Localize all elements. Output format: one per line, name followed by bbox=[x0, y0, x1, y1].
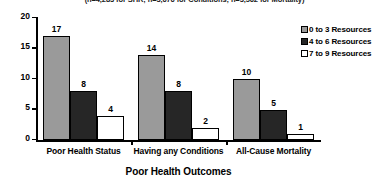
category-label-1: Having any Conditions bbox=[131, 146, 226, 156]
bar-0-2 bbox=[97, 116, 124, 140]
bar-1-2 bbox=[192, 128, 219, 140]
y-tick-20: 20 bbox=[32, 17, 36, 19]
bar-0-0 bbox=[43, 36, 70, 140]
sample-size-caption: (n=4,283 for SHR; n=3,676 for Conditions… bbox=[0, 0, 389, 4]
x-axis-line bbox=[36, 140, 321, 142]
bar-value-label-0-2: 4 bbox=[97, 104, 124, 114]
legend-item-1: 4 to 6 Resources bbox=[301, 36, 389, 47]
bar-value-label-1-2: 2 bbox=[192, 116, 219, 126]
bar-1-1 bbox=[165, 91, 192, 140]
category-label-2: All-Cause Mortality bbox=[226, 146, 321, 156]
legend-swatch-icon-2 bbox=[301, 50, 308, 57]
x-tick-1 bbox=[131, 140, 133, 145]
bar-value-label-2-0: 10 bbox=[233, 67, 260, 77]
y-tick-label-10: 10 bbox=[21, 72, 30, 83]
y-tick-label-0: 0 bbox=[25, 133, 30, 144]
bar-chart-figure: (n=4,283 for SHR; n=3,676 for Conditions… bbox=[0, 0, 389, 185]
y-tick-15: 15 bbox=[32, 47, 36, 49]
x-axis-title: Poor Health Outcomes bbox=[36, 166, 321, 177]
bar-value-label-0-1: 8 bbox=[70, 79, 97, 89]
bar-2-1 bbox=[260, 110, 287, 141]
y-tick-label-15: 15 bbox=[21, 41, 30, 52]
legend-item-2: 7 to 9 Resources bbox=[301, 48, 389, 59]
bar-value-label-0-0: 17 bbox=[43, 24, 70, 34]
legend-item-0: 0 to 3 Resources bbox=[301, 24, 389, 35]
legend-label-0: 0 to 3 Resources bbox=[309, 25, 371, 34]
legend: 0 to 3 Resources 4 to 6 Resources 7 to 9… bbox=[301, 24, 389, 60]
legend-label-1: 4 to 6 Resources bbox=[309, 37, 371, 46]
bar-value-label-1-0: 14 bbox=[138, 43, 165, 53]
bar-value-label-2-2: 1 bbox=[287, 122, 314, 132]
bar-2-0 bbox=[233, 79, 260, 140]
y-tick-label-20: 20 bbox=[21, 11, 30, 22]
y-tick-label-5: 5 bbox=[25, 102, 30, 113]
plot-area: 05101520 178414821051 bbox=[36, 17, 321, 141]
category-label-0: Poor Health Status bbox=[36, 146, 131, 156]
bar-value-label-2-1: 5 bbox=[260, 98, 287, 108]
legend-label-2: 7 to 9 Resources bbox=[309, 49, 371, 58]
y-tick-5: 5 bbox=[32, 108, 36, 110]
bar-2-2 bbox=[287, 134, 314, 140]
y-axis-line bbox=[36, 17, 38, 141]
bar-value-label-1-1: 8 bbox=[165, 79, 192, 89]
y-tick-10: 10 bbox=[32, 78, 36, 80]
bar-0-1 bbox=[70, 91, 97, 140]
x-tick-2 bbox=[226, 140, 228, 145]
legend-swatch-icon-1 bbox=[301, 38, 308, 45]
bar-1-0 bbox=[138, 55, 165, 140]
y-tick-0: 0 bbox=[32, 139, 36, 141]
legend-swatch-icon-0 bbox=[301, 26, 308, 33]
